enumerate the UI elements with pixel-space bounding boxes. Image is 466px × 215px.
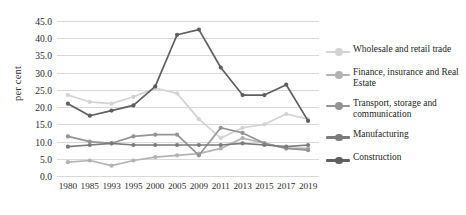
y-axis-tick-label: 40.0 [35,33,52,44]
legend-item[interactable]: Manufacturing [326,129,466,143]
x-axis-tick-label: 1995 [124,181,142,191]
data-point [306,148,310,152]
data-point [175,91,179,95]
x-axis-tick-label: 1985 [81,181,99,191]
legend-item[interactable]: Finance, insurance and Real Estate [326,67,466,89]
data-point [66,102,70,106]
chart-legend: Wholesale and retail tradeFinance, insur… [326,44,466,175]
legend-marker-icon [326,69,350,81]
data-point [240,93,244,97]
data-point [219,136,223,140]
series-transport-storage-and-communication [66,126,310,158]
data-point [219,143,223,147]
data-point [240,131,244,135]
series-line [68,128,308,156]
data-point [262,143,266,147]
data-point [262,93,266,97]
series-layer [57,21,319,176]
data-point [88,143,92,147]
data-point [66,134,70,138]
legend-item[interactable]: Transport, storage and communication [326,98,466,120]
y-axis-tick-label: 30.0 [35,67,52,78]
data-point [109,108,113,112]
y-axis-tick-label: 15.0 [35,119,52,130]
data-point [66,93,70,97]
data-point [88,100,92,104]
data-point [240,141,244,145]
data-point [109,102,113,106]
y-axis-tick-label: 0.0 [40,171,52,182]
data-point [66,160,70,164]
x-axis-tick-label: 2017 [277,181,295,191]
data-point [197,117,201,121]
y-axis-tick-label: 10.0 [35,136,52,147]
data-point [153,84,157,88]
data-point [88,158,92,162]
data-point [197,143,201,147]
y-axis-tick-label: 5.0 [40,153,52,164]
y-axis-tick-label: 35.0 [35,50,52,61]
data-point [131,103,135,107]
legend-item-label: Manufacturing [353,129,409,140]
data-point [153,143,157,147]
legend-item-label: Finance, insurance and Real Estate [353,67,466,89]
x-axis-tick-label: 2005 [168,181,186,191]
data-point [153,155,157,159]
data-point [109,164,113,168]
data-point [262,122,266,126]
data-point [131,95,135,99]
legend-item-label: Wholesale and retail trade [353,44,451,55]
series-finance-insurance-and-real-estate [66,136,310,168]
data-point [88,114,92,118]
x-axis-tick-label: 2015 [255,181,273,191]
series-construction [66,28,310,123]
data-point [175,33,179,37]
chart-container: per cent 0.05.010.015.020.025.030.035.04… [0,0,466,215]
data-point [284,145,288,149]
x-axis-tick-label: 2011 [212,181,230,191]
y-axis-tick-label: 45.0 [35,16,52,27]
x-axis-tick-label: 2019 [299,181,317,191]
legend-item-label: Construction [353,152,401,163]
data-point [306,143,310,147]
data-point [197,28,201,32]
data-point [284,83,288,87]
plot-area: 0.05.010.015.020.025.030.035.040.045.0 1… [57,21,319,176]
legend-item-label: Transport, storage and communication [353,98,466,120]
data-point [306,119,310,123]
x-axis-tick-label: 2009 [190,181,208,191]
line-series-svg [57,21,319,176]
legend-marker-icon [326,154,350,166]
data-point [153,133,157,137]
legend-marker-icon [326,46,350,58]
data-point [131,134,135,138]
data-point [284,112,288,116]
data-point [175,143,179,147]
legend-marker-icon [326,100,350,112]
data-point [66,145,70,149]
data-point [240,126,244,130]
x-axis-tick-label: 1993 [102,181,120,191]
y-axis-title: per cent [12,49,23,119]
data-point [175,133,179,137]
x-axis-tick-label: 2013 [233,181,251,191]
legend-marker-icon [326,131,350,143]
data-point [131,158,135,162]
data-point [219,65,223,69]
data-point [175,153,179,157]
x-axis-tick-label: 1980 [59,181,77,191]
legend-item[interactable]: Construction [326,152,466,166]
data-point [131,143,135,147]
series-line [68,143,308,146]
legend-item[interactable]: Wholesale and retail trade [326,44,466,58]
gridline [57,176,319,177]
data-point [219,126,223,130]
y-axis-tick-label: 20.0 [35,102,52,113]
data-point [240,136,244,140]
x-axis-tick-label: 2000 [146,181,164,191]
data-point [109,141,113,145]
y-axis-tick-label: 25.0 [35,84,52,95]
data-point [197,153,201,157]
